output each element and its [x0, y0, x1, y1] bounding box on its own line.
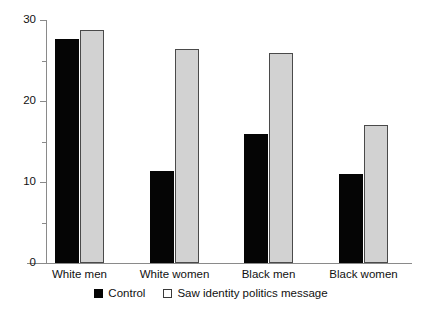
y-axis-tick-label: 20: [8, 95, 36, 107]
y-axis-tick-label: 10: [8, 176, 36, 188]
bar: [339, 174, 363, 263]
y-axis-tick-major: [40, 182, 46, 183]
x-axis-category-label: White men: [30, 268, 130, 280]
legend-entry: Control: [94, 287, 145, 299]
bar-group: [55, 20, 104, 263]
bar-group: [150, 20, 199, 263]
bar-group: [244, 20, 293, 263]
black-square-icon: [94, 289, 103, 298]
x-axis-category-label: Black men: [219, 268, 319, 280]
bar: [364, 125, 388, 263]
y-axis-tick-minor: [42, 223, 46, 224]
y-axis-tick-major: [40, 263, 46, 264]
white-square-icon: [163, 289, 172, 298]
bar: [175, 49, 199, 263]
legend-label: Saw identity politics message: [177, 287, 327, 299]
y-axis-tick-major: [40, 101, 46, 102]
chart-legend: ControlSaw identity politics message: [0, 287, 422, 299]
bar: [244, 134, 268, 263]
y-axis-tick-major: [40, 20, 46, 21]
y-axis-line: [46, 20, 47, 264]
bar-chart: 0102030 White menWhite womenBlack menBla…: [0, 0, 422, 309]
x-axis-category-label: Black women: [314, 268, 414, 280]
x-axis-line: [27, 263, 412, 264]
y-axis-tick-label: 0: [8, 257, 36, 269]
y-axis-tick-minor: [42, 142, 46, 143]
y-axis-tick-minor: [42, 61, 46, 62]
legend-label: Control: [108, 287, 145, 299]
y-axis-tick-label: 30: [8, 14, 36, 26]
bar: [269, 53, 293, 263]
bar: [150, 171, 174, 263]
x-axis-category-label: White women: [125, 268, 225, 280]
bar: [55, 39, 79, 263]
bar-group: [339, 20, 388, 263]
bar: [80, 30, 104, 263]
legend-entry: Saw identity politics message: [163, 287, 327, 299]
